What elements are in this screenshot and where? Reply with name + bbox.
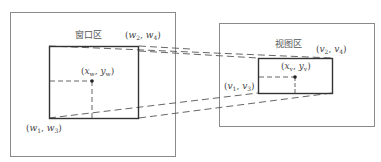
- subscript: 2: [136, 34, 140, 41]
- viewport-point-label: (xv, yv): [281, 62, 311, 72]
- window-corner-bottom-left-label: (w1, w3): [26, 124, 62, 134]
- viewport-corner-bottom-left-label: (v1, v3): [224, 82, 255, 92]
- window-rect: [50, 47, 139, 119]
- subscript: 3: [247, 85, 251, 92]
- var: w: [146, 30, 154, 40]
- subscript: 1: [233, 85, 237, 92]
- subscript: 1: [37, 127, 41, 134]
- subscript: 4: [339, 48, 343, 55]
- viewport-corner-top-right-label: (v2, v4): [316, 45, 347, 55]
- window-viewport-diagram: 窗口区 (w2, w4) (xw, yw) (w1, w3) 视图区 (v2, …: [0, 0, 381, 162]
- subscript: w: [90, 70, 95, 77]
- subscript: 3: [55, 127, 59, 134]
- var: w: [47, 123, 55, 133]
- subscript: 4: [154, 34, 158, 41]
- subscript: 2: [325, 48, 329, 55]
- projection-line-bottom-2: [139, 93, 332, 118]
- viewport-area-title: 视图区: [275, 40, 302, 49]
- diagram-canvas: [0, 0, 381, 162]
- projection-line-bottom-1: [49, 93, 258, 118]
- subscript: v: [290, 65, 293, 72]
- window-point: [90, 79, 94, 83]
- window-point-label: (xw, yw): [81, 67, 114, 77]
- viewport-point: [293, 75, 297, 79]
- projection-line-top-3: [139, 46, 190, 49]
- subscript: w: [106, 70, 111, 77]
- window-corner-top-right-label: (w2, w4): [125, 31, 161, 41]
- window-area-title: 窗口区: [75, 31, 102, 40]
- subscript: v: [304, 65, 307, 72]
